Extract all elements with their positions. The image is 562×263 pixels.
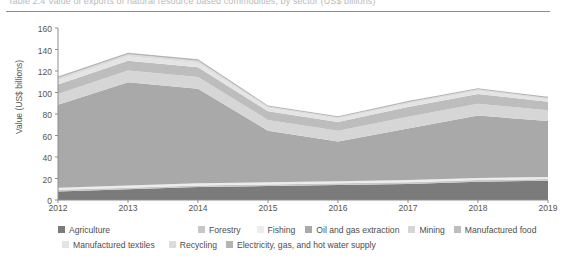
legend-item[interactable]: Oil and gas extraction [305,225,399,235]
legend-item[interactable]: Forestry [198,225,241,235]
legend-swatch-icon [454,226,461,233]
legend-item[interactable]: Electricity, gas, and hot water supply [226,240,376,250]
legend-swatch-icon [58,226,65,233]
legend-item-label: Agriculture [69,225,110,235]
legend-item-label: Electricity, gas, and hot water supply [237,240,376,250]
legend-item[interactable]: Fishing [257,225,296,235]
legend-swatch-icon [169,241,176,248]
legend-swatch-icon [305,226,312,233]
legend-item-label: Manufactured food [465,225,537,235]
legend-item[interactable]: Manufactured food [454,225,537,235]
legend-item-label: Recycling [180,240,217,250]
x-tick-2019: 2019 [528,203,562,213]
legend-item[interactable]: Mining [408,225,444,235]
x-tick-2017: 2017 [388,203,428,213]
x-tick-2012: 2012 [38,203,78,213]
legend-item-label: Manufactured textiles [73,240,155,250]
legend-swatch-icon [226,241,233,248]
x-tick-2014: 2014 [178,203,218,213]
legend-swatch-icon [408,226,415,233]
legend-item-label: Mining [419,225,444,235]
legend-item[interactable]: Agriculture [58,225,110,235]
legend-swatch-icon [198,226,205,233]
legend-item-label: Fishing [268,225,296,235]
legend-item[interactable]: Recycling [169,240,217,250]
x-tick-2016: 2016 [318,203,358,213]
legend-row-1: AgricultureForestryFishingOil and gas ex… [0,222,556,237]
legend-item-label: Oil and gas extraction [316,225,399,235]
chart-legend: AgricultureForestryFishingOil and gas ex… [0,222,556,252]
legend-item[interactable]: Manufactured textiles [62,240,155,250]
legend-item-label: Forestry [209,225,241,235]
x-tick-2015: 2015 [248,203,288,213]
legend-swatch-icon [257,226,264,233]
legend-row-2: Manufactured textilesRecyclingElectricit… [0,237,556,252]
x-tick-2018: 2018 [458,203,498,213]
legend-swatch-icon [62,241,69,248]
x-tick-2013: 2013 [108,203,148,213]
